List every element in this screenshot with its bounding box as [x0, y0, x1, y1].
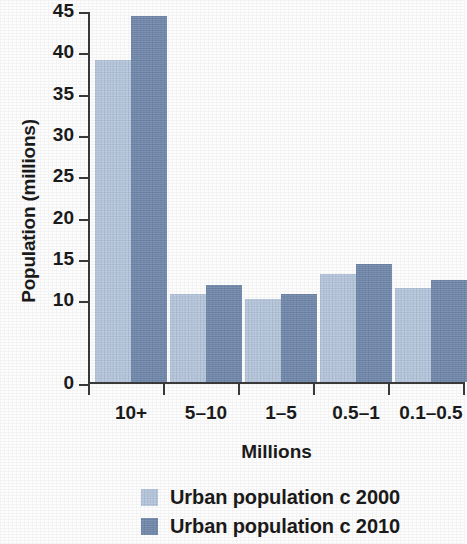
y-axis-title: Population (millions) — [18, 71, 40, 351]
bar-group — [395, 10, 467, 382]
x-axis-line — [88, 382, 465, 384]
x-axis-tick — [388, 384, 390, 395]
bar-group — [170, 10, 242, 382]
y-axis-line — [88, 12, 90, 384]
y-axis-tick: 30 — [79, 136, 89, 138]
bar-group — [245, 10, 317, 382]
y-axis-tick: 20 — [79, 219, 89, 221]
x-axis-category-label: 0.5–1 — [332, 402, 380, 424]
y-axis-tick-label: 20 — [53, 208, 74, 228]
legend-label: Urban population c 2000 — [170, 486, 400, 509]
legend-swatch — [141, 489, 158, 506]
bar — [356, 264, 392, 382]
x-axis-category-label: 1–5 — [265, 402, 297, 424]
y-axis-tick-label: 10 — [53, 290, 74, 310]
bar — [131, 16, 167, 382]
bar-group — [95, 10, 167, 382]
legend-item: Urban population c 2000 — [141, 483, 400, 512]
legend-label: Urban population c 2010 — [170, 515, 400, 538]
x-axis-category-label: 5–10 — [185, 402, 227, 424]
y-axis-tick: 25 — [79, 177, 89, 179]
legend-swatch — [141, 518, 158, 535]
y-axis-tick: 40 — [79, 53, 89, 55]
y-axis-tick: 15 — [79, 260, 89, 262]
chart-legend: Urban population c 2000Urban population … — [141, 483, 400, 541]
bar — [95, 60, 131, 382]
x-axis-tick — [463, 384, 465, 395]
x-axis-title: Millions — [88, 441, 465, 463]
bar — [170, 294, 206, 382]
x-axis-tick — [238, 384, 240, 395]
x-axis-category-label: 0.1–0.5 — [399, 402, 462, 424]
y-axis-tick-label: 35 — [53, 84, 74, 104]
plot-area: 01015202530354045 10+5–101–50.5–10.1–0.5 — [88, 10, 465, 384]
y-axis-tick: 35 — [79, 95, 89, 97]
bar — [320, 274, 356, 382]
bar — [395, 288, 431, 382]
y-axis-tick-label: 30 — [53, 125, 74, 145]
bar — [245, 299, 281, 382]
y-axis-tick-label: 15 — [53, 249, 74, 269]
x-axis-tick — [163, 384, 165, 395]
bar-group — [320, 10, 392, 382]
bar — [206, 285, 242, 382]
y-axis-tick-label: 0 — [63, 373, 74, 393]
y-axis-tick-label: 45 — [53, 1, 74, 21]
x-axis-tick — [88, 384, 90, 395]
bar — [281, 294, 317, 382]
x-axis-tick — [313, 384, 315, 395]
legend-item: Urban population c 2010 — [141, 512, 400, 541]
y-axis-tick: 10 — [79, 301, 89, 303]
x-axis-category-label: 10+ — [115, 402, 147, 424]
bar — [431, 280, 467, 383]
y-axis-tick: 45 — [79, 12, 89, 14]
y-axis-tick-label: 40 — [53, 42, 74, 62]
y-axis-tick-label: 25 — [53, 166, 74, 186]
